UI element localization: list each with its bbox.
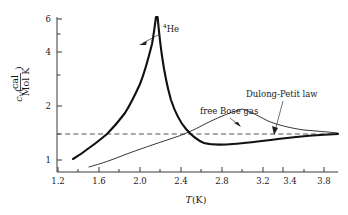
helium-4-arrowhead	[139, 41, 147, 45]
x-tick-label-2p0: 2.0	[133, 176, 147, 186]
y-axis-paren-close: )	[13, 66, 24, 70]
y-axis-title: cV( cal Mol K )	[9, 66, 31, 101]
free-bose-gas-curve	[89, 109, 338, 167]
x-tick-label-2p4: 2.4	[174, 176, 188, 186]
y-tick-label-6: 6	[46, 14, 51, 24]
y-tick-label-2: 2	[46, 101, 51, 111]
dulong-petit-annotation: Dulong-Petit law	[246, 89, 318, 99]
figure-container: 6 4 2 1 1.2 1.6 2.0 2.4 2.8 3.2	[0, 0, 348, 215]
x-tick-label-2p8: 2.8	[215, 176, 229, 186]
free-bose-gas-arrowhead	[234, 122, 241, 127]
x-tick-group: 1.2 1.6 2.0 2.4 2.8 3.2 3.4 3.8	[51, 167, 331, 186]
y-tick-label-4: 4	[46, 47, 51, 57]
x-tick-label-3p8: 3.8	[317, 176, 331, 186]
y-tick-group: 6 4 2 1	[46, 14, 62, 165]
x-tick-label-1p6: 1.6	[92, 176, 106, 186]
y-axis-denominator: Mol K	[20, 67, 31, 97]
helium-4-curve	[73, 17, 338, 159]
x-tick-label-3p4: 3.4	[283, 176, 297, 186]
helium-4-symbol: He	[167, 24, 179, 34]
x-tick-label-1p2: 1.2	[51, 176, 65, 186]
x-tick-label-3p2: 3.2	[256, 176, 270, 186]
specific-heat-chart: 6 4 2 1 1.2 1.6 2.0 2.4 2.8 3.2	[0, 0, 348, 215]
dulong-petit-leader-line	[275, 101, 283, 131]
x-axis-title: T(K)	[186, 194, 207, 205]
helium-4-annotation: 4He	[163, 23, 179, 34]
y-axis-numerator: cal	[9, 75, 20, 89]
free-bose-gas-annotation: free Bose gas	[200, 106, 258, 116]
x-axis-title-unit: (K)	[192, 194, 207, 205]
y-tick-label-1: 1	[46, 155, 51, 165]
